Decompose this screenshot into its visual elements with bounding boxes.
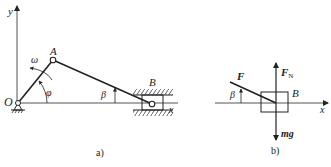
joint-A xyxy=(50,57,56,63)
point-B-label: B xyxy=(149,76,156,88)
y-axis-label: y xyxy=(7,5,13,17)
beta-label-b: β xyxy=(229,89,235,100)
beta-label-a: β xyxy=(100,89,106,100)
figure-b-free-body: x β F FN mg B b) xyxy=(215,63,328,157)
omega-label: ω xyxy=(31,54,38,65)
x-axis-label-b: x xyxy=(319,104,325,115)
normal-force-label: FN xyxy=(280,66,293,80)
figure: y x O A B ω xyxy=(0,0,331,167)
slider-guide-bottom xyxy=(133,110,173,116)
joint-B xyxy=(149,101,155,107)
block-B-label: B xyxy=(292,87,299,99)
weight-label: mg xyxy=(281,128,294,139)
phi-label: φ xyxy=(46,87,52,98)
force-F-label: F xyxy=(236,70,245,82)
caption-b: b) xyxy=(271,145,279,157)
slider-guide-top xyxy=(133,89,173,95)
joint-O xyxy=(16,101,21,106)
figure-a-crank-slider: y x O A B ω xyxy=(4,5,178,159)
point-A-label: A xyxy=(49,45,57,57)
origin-label: O xyxy=(4,95,13,109)
caption-a: a) xyxy=(96,147,104,159)
